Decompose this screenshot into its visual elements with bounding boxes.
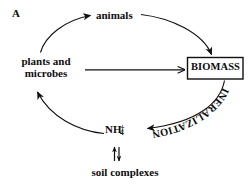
diagram-canvas <box>0 0 251 190</box>
node-label-plants-and-microbes: plants and microbes <box>9 56 83 80</box>
edge-biomass-to-ammonium <box>148 81 225 129</box>
node-label-ammonium: NH4+ <box>105 124 125 137</box>
edge-animals-to-biomass <box>141 15 212 55</box>
nitrogen-cycle-diagram: MINERALIZATION A animals plants and micr… <box>0 0 251 190</box>
node-label-soil-complexes: soil complexes <box>70 167 180 179</box>
panel-letter: A <box>12 8 20 20</box>
ammonium-superscript: + <box>120 123 125 132</box>
node-label-plants-line2: microbes <box>25 67 68 79</box>
node-label-animals: animals <box>96 10 133 22</box>
edge-plants-to-animals <box>41 16 91 53</box>
node-label-biomass: BIOMASS <box>188 61 243 72</box>
edge-ammonium-to-plants <box>38 92 105 134</box>
node-label-plants-line1: plants and <box>21 55 70 67</box>
